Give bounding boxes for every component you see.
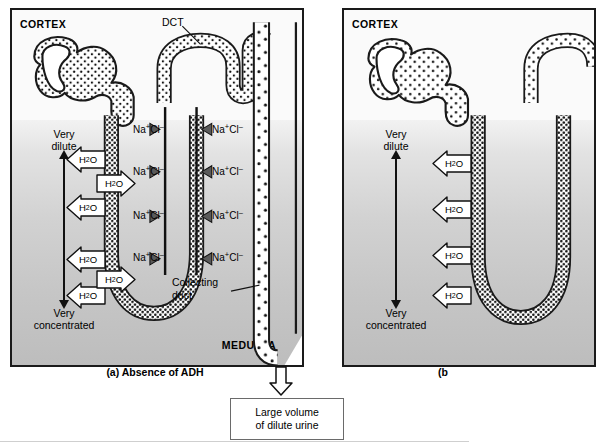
nacl-label: Na+Cl– [212,208,243,221]
urine-output-arrow [268,366,294,396]
water-label: H2O [96,266,136,293]
nacl-label: Na+Cl– [212,250,243,263]
urine-output-box: Large volume of dilute urine [230,398,344,440]
nacl-label: Na+Cl– [212,122,243,135]
panel-a-caption: (a) Absence of ADH [10,366,300,378]
water-arrow: H2O [432,282,472,309]
water-arrow: H2O [66,194,106,221]
water-label: H2O [432,282,472,309]
nacl-label: Na+Cl– [133,122,164,135]
nacl-label: Na+Cl– [133,208,164,221]
nacl-label: Na+Cl– [133,250,164,263]
panel-b-caption: (b [342,366,592,378]
nacl-label: Na+Cl– [212,164,243,177]
collecting-duct-label-a: Collecting duct [172,276,218,301]
water-label: H2O [66,194,106,221]
water-arrow: H2O [432,242,472,269]
urine-line-2: of dilute urine [255,419,318,432]
page-divider-rule [0,441,469,442]
water-label: H2O [432,196,472,223]
nacl-label: Na+Cl– [133,164,164,177]
water-arrow: H2O [96,266,136,293]
water-arrow: H2O [66,146,106,173]
water-label: H2O [432,242,472,269]
water-arrow: H2O [96,170,136,197]
water-label: H2O [66,146,106,173]
panel-presence-of-adh: CORTEX Very dilute Very concentrated [342,8,596,367]
urine-line-1: Large volume [255,406,319,419]
panel-absence-of-adh: CORTEX MEDULLA Very dilute Very concentr… [10,8,304,367]
glomerulus-pct-b [368,39,468,126]
water-label: H2O [96,170,136,197]
water-label: H2O [432,150,472,177]
nephron-drawing-b [344,10,594,365]
ion-pumps-a [12,10,302,365]
descending-limb-b [478,115,563,317]
water-arrow: H2O [432,150,472,177]
dct-b [531,40,594,103]
dct-label-a: DCT [162,16,184,29]
water-arrow: H2O [432,196,472,223]
